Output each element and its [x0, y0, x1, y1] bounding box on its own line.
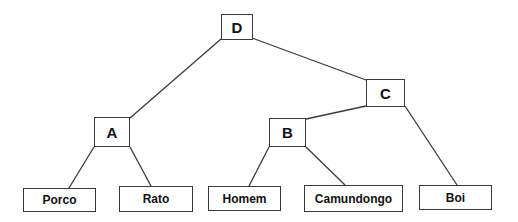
node-a: A — [94, 117, 130, 147]
leaf-homem-label: Homem — [222, 192, 266, 206]
edge-d-a — [130, 39, 221, 118]
leaf-boi-label: Boi — [446, 191, 465, 205]
leaf-rato-label: Rato — [143, 192, 170, 206]
node-b-label: B — [282, 124, 293, 141]
edge-c-b — [306, 106, 366, 119]
leaf-homem: Homem — [208, 186, 281, 211]
leaf-camundongo: Camundongo — [304, 185, 403, 212]
edge-b-homem — [249, 147, 269, 186]
edge-a-porco — [69, 147, 94, 188]
leaf-camundongo-label: Camundongo — [315, 192, 392, 206]
node-d: D — [221, 14, 253, 40]
leaf-porco-label: Porco — [42, 193, 76, 207]
edge-c-boi — [405, 106, 457, 185]
leaf-rato: Rato — [119, 186, 193, 212]
node-c: C — [366, 79, 405, 107]
edge-b-camundongo — [306, 147, 345, 185]
edge-a-rato — [130, 147, 151, 186]
node-a-label: A — [107, 124, 118, 141]
leaf-porco: Porco — [23, 188, 96, 212]
leaf-boi: Boi — [419, 185, 492, 210]
node-b: B — [269, 118, 306, 147]
edge-d-c — [252, 38, 366, 80]
node-c-label: C — [380, 85, 391, 102]
node-d-label: D — [232, 19, 243, 36]
